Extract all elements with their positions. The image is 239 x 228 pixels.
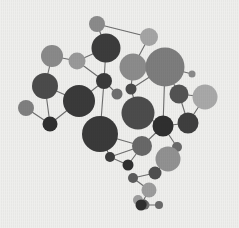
- graph-node[interactable]: [178, 113, 199, 134]
- graph-node[interactable]: [155, 201, 163, 209]
- graph-node[interactable]: [122, 97, 155, 130]
- graph-node[interactable]: [89, 16, 105, 32]
- graph-node[interactable]: [63, 85, 95, 117]
- graph-node[interactable]: [105, 152, 115, 162]
- graph-node[interactable]: [156, 147, 181, 172]
- graph-node[interactable]: [123, 160, 134, 171]
- graph-node[interactable]: [170, 85, 189, 104]
- graph-node[interactable]: [142, 183, 157, 198]
- graph-node[interactable]: [82, 116, 118, 152]
- graph-node[interactable]: [149, 167, 162, 180]
- graph-node[interactable]: [140, 28, 158, 46]
- graph-node[interactable]: [193, 85, 218, 110]
- graph-node[interactable]: [136, 200, 147, 211]
- graph-node[interactable]: [153, 116, 174, 137]
- graph-node[interactable]: [120, 54, 147, 81]
- graph-node[interactable]: [18, 100, 34, 116]
- graph-node[interactable]: [32, 73, 58, 99]
- graph-node[interactable]: [146, 48, 185, 87]
- graph-node[interactable]: [41, 45, 63, 67]
- graph-node[interactable]: [96, 73, 112, 89]
- graph-node[interactable]: [92, 34, 121, 63]
- graph-node[interactable]: [128, 173, 138, 183]
- graph-node[interactable]: [69, 53, 86, 70]
- network-graph-svg: [0, 0, 239, 228]
- network-graph-canvas: [0, 0, 239, 228]
- graph-node[interactable]: [132, 136, 152, 156]
- graph-node[interactable]: [112, 89, 123, 100]
- graph-node[interactable]: [126, 84, 137, 95]
- graph-node[interactable]: [43, 117, 58, 132]
- graph-node[interactable]: [189, 71, 196, 78]
